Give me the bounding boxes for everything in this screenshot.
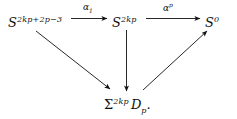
- node-bottom-punctuation: .: [146, 97, 150, 112]
- node-bottom-base: Σ: [104, 97, 113, 112]
- node-bottom-object: D: [131, 97, 141, 112]
- node-source-base: S: [8, 15, 17, 30]
- node-middle-sphere: S2kp: [112, 16, 137, 29]
- node-source-exponent: 2kp+2p−3: [17, 15, 62, 24]
- node-target-sphere: S0: [205, 16, 219, 29]
- node-target-base: S: [205, 15, 214, 30]
- node-source-sphere: S2kp+2p−3: [8, 16, 62, 29]
- node-bottom-exponent: 2kp: [113, 97, 129, 106]
- arrow-label-alpha-p-exponent: p: [169, 1, 173, 8]
- arrow-label-alpha-1-subscript: 1: [89, 7, 93, 14]
- arrow-source-to-bottom: [36, 31, 110, 89]
- node-middle-base: S: [112, 15, 121, 30]
- node-bottom-suspension: Σ2kpDp.: [104, 98, 151, 115]
- arrow-bottom-to-target: [143, 31, 207, 90]
- arrow-label-alpha-p: αp: [163, 2, 173, 13]
- arrow-label-alpha-1: α1: [83, 3, 93, 14]
- node-target-exponent: 0: [214, 15, 219, 24]
- node-middle-exponent: 2kp: [121, 15, 137, 24]
- commutative-diagram: S2kp+2p−3 S2kp S0 Σ2kpDp. α1 αp: [0, 0, 237, 119]
